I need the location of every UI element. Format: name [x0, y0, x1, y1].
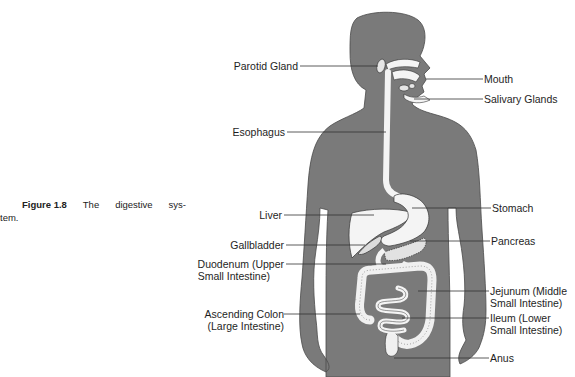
label-anus: Anus	[490, 352, 514, 364]
label-liver: Liver	[259, 209, 282, 221]
digestive-system-illustration	[0, 0, 575, 377]
label-line: Small Intestine)	[490, 297, 567, 309]
label-line: Small Intestine)	[490, 324, 562, 336]
label-duodenum: Duodenum (Upper Small Intestine)	[198, 258, 284, 282]
label-pancreas: Pancreas	[491, 235, 535, 247]
label-line: Small Intestine)	[198, 270, 270, 282]
rectum	[385, 330, 398, 356]
label-jejunum: Jejunum (Middle Small Intestine)	[490, 285, 567, 309]
label-salivary-glands: Salivary Glands	[484, 93, 558, 105]
label-mouth: Mouth	[484, 73, 513, 85]
label-line: Ascending Colon	[205, 308, 284, 320]
label-line: (Large Intestine)	[205, 320, 284, 332]
label-ascending-colon: Ascending Colon (Large Intestine)	[205, 308, 284, 332]
label-stomach: Stomach	[492, 202, 533, 214]
label-parotid-gland: Parotid Gland	[234, 60, 298, 72]
label-ileum: Ileum (Lower Small Intestine)	[490, 312, 562, 336]
label-line: Ileum (Lower	[490, 312, 562, 324]
label-line: Jejunum (Middle	[490, 285, 567, 297]
label-gallbladder: Gallbladder	[230, 239, 284, 251]
label-esophagus: Esophagus	[232, 126, 285, 138]
label-line: Duodenum (Upper	[198, 258, 284, 270]
